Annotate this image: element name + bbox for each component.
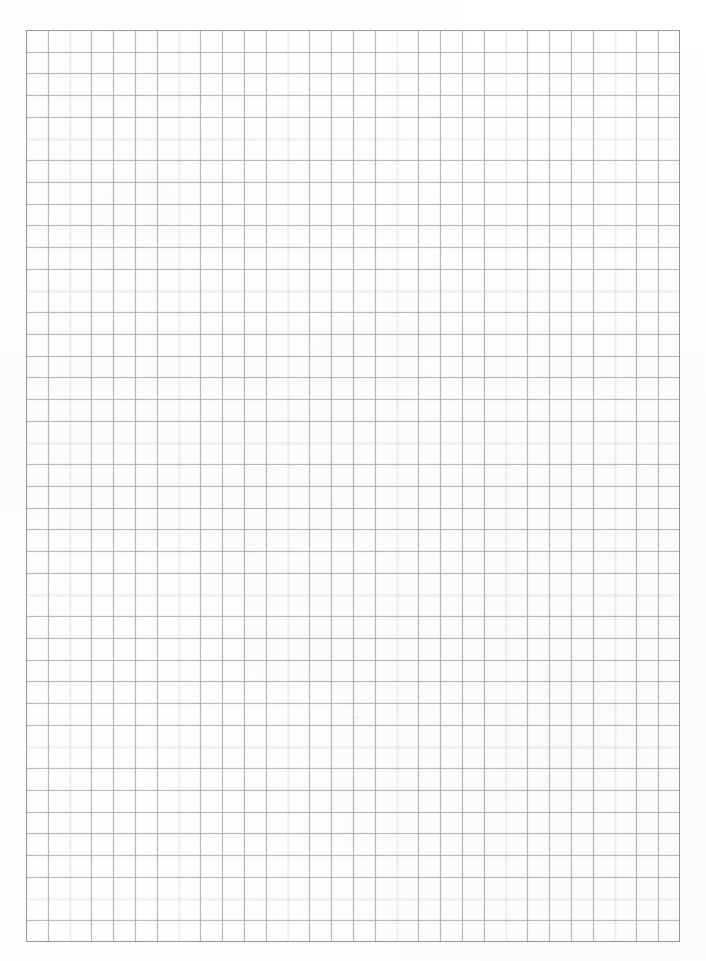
grid-bottom-edge-rule <box>26 941 680 942</box>
grid-paper-page <box>0 0 706 961</box>
grid-sheet <box>26 30 680 942</box>
speck-upper-left <box>18 77 20 79</box>
grid-lines <box>26 30 680 942</box>
grid-outer-border <box>26 30 680 942</box>
grid-right-edge-rule <box>679 30 680 942</box>
grid-line-bleed <box>26 30 680 942</box>
